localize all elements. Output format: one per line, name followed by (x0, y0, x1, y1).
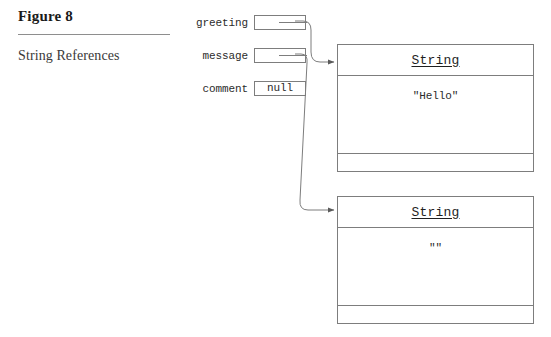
caption-divider (18, 34, 170, 35)
variable-label-message: message (180, 50, 248, 62)
variable-label-comment: comment (180, 83, 248, 95)
object-type-header: String (338, 197, 533, 228)
variable-row-greeting: greeting (180, 14, 306, 31)
figure-canvas: Figure 8 String References greeting mess… (0, 0, 551, 337)
figure-caption-block: Figure 8 String References (18, 8, 178, 64)
object-type-label: String (411, 53, 459, 68)
variable-box-greeting (254, 15, 306, 30)
reference-stub-icon (279, 22, 307, 23)
object-value-text: "Hello" (413, 90, 459, 102)
object-value-compartment: "Hello" (338, 76, 533, 154)
object-value-compartment: "" (338, 228, 533, 306)
variable-row-comment: comment null (180, 80, 306, 97)
object-method-compartment (338, 306, 533, 323)
variable-box-message (254, 48, 306, 63)
object-value-text: "" (429, 242, 442, 254)
object-type-label: String (411, 205, 459, 220)
object-box-string-hello: String "Hello" (337, 44, 534, 172)
object-box-string-empty: String "" (337, 196, 534, 324)
object-method-compartment (338, 154, 533, 171)
variable-value-comment: null (255, 82, 305, 95)
object-type-header: String (338, 45, 533, 76)
arrow-message-to-string-empty (295, 54, 334, 210)
reference-stub-icon (279, 55, 307, 56)
figure-number: Figure 8 (18, 8, 178, 25)
figure-caption-text: String References (18, 48, 178, 65)
variable-box-comment: null (254, 81, 306, 96)
variable-row-message: message (180, 47, 306, 64)
variable-label-greeting: greeting (180, 17, 248, 29)
